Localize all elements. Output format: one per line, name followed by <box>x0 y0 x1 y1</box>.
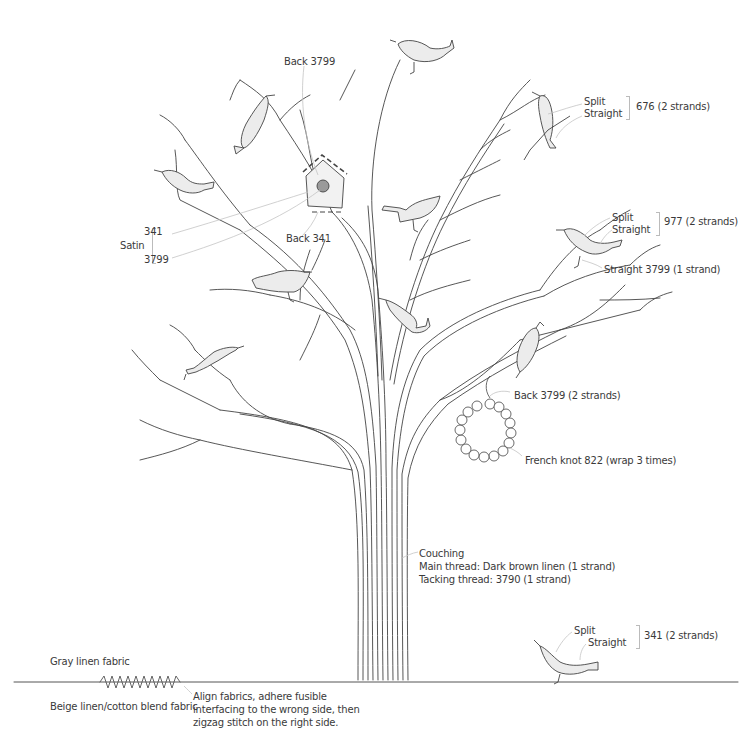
label-bird-977-straight: Straight <box>612 223 650 236</box>
bird-lower-left <box>184 346 244 380</box>
label-wreath-hanger: Back 3799 (2 strands) <box>514 389 621 402</box>
label-birdhouse-back-341: Back 341 <box>286 232 331 245</box>
birdhouse-hole <box>317 180 329 192</box>
label-satin-341: 341 <box>144 225 163 238</box>
wreath <box>455 376 516 462</box>
label-fabric-top: Gray linen fabric <box>50 655 130 668</box>
bird-center-flying <box>382 196 440 232</box>
bird-top-center <box>390 40 454 74</box>
brace-341 <box>636 625 640 649</box>
label-bird-977-thread: 977 (2 strands) <box>664 215 738 228</box>
label-trunk-couching: Couching <box>419 547 464 560</box>
birdhouse <box>303 155 347 212</box>
brace-977 <box>656 212 660 236</box>
label-bird-977-legs: Straight 3799 (1 strand) <box>604 263 720 276</box>
label-birdhouse-back-3799: Back 3799 <box>284 55 335 68</box>
label-bird-676-straight: Straight <box>584 107 622 120</box>
leader-lines <box>172 66 612 694</box>
label-satin-3799: 3799 <box>144 253 169 266</box>
bird-left-perched <box>154 170 214 193</box>
label-wreath-french-knot: French knot 822 (wrap 3 times) <box>525 454 676 467</box>
label-fabric-bottom: Beige linen/cotton blend fabric <box>50 700 198 713</box>
label-ground-bird-straight: Straight <box>588 636 626 649</box>
label-trunk-tacking-thread: Tacking thread: 3790 (1 strand) <box>419 573 571 586</box>
label-bird-676-thread: 676 (2 strands) <box>636 100 710 113</box>
label-trunk-main-thread: Main thread: Dark brown linen (1 strand) <box>419 560 615 573</box>
label-ground-bird-thread: 341 (2 strands) <box>644 629 718 642</box>
label-satin: Satin <box>120 239 145 252</box>
french-knot-ring <box>455 399 516 462</box>
bird-right-hanging <box>516 322 544 378</box>
tree-branches <box>132 60 672 470</box>
label-seam-note: Align fabrics, adhere fusible interfacin… <box>193 690 373 729</box>
brace-676 <box>626 96 630 120</box>
bird-middle-diving <box>378 298 430 333</box>
